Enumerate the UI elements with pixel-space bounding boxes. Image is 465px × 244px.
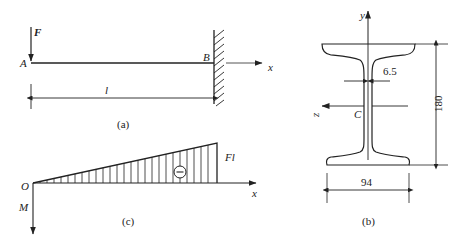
x-axis-label: x (267, 61, 273, 73)
length-label: l (105, 84, 108, 96)
negative-sign-icon (174, 166, 186, 178)
max-moment-label: Fl (224, 151, 235, 163)
moment-axis-label: M (18, 201, 29, 213)
figure-a-cantilever: F A B x l (a) (19, 26, 273, 131)
centroid-label: C (354, 108, 362, 120)
point-a-label: A (19, 57, 27, 69)
origin-label: O (21, 180, 29, 192)
moment-curve (33, 143, 217, 183)
i-beam-section (322, 44, 415, 165)
beam-diagram-canvas: F A B x l (a) (0, 0, 465, 244)
moment-x-axis-label: x (251, 187, 257, 199)
height-label: 180 (432, 95, 444, 112)
flange-width-label: 94 (361, 176, 373, 188)
point-b-label: B (203, 51, 210, 63)
figure-b-cross-section: y 180 6.5 z C 94 (b) (309, 9, 448, 228)
y-axis-label: y (359, 9, 365, 21)
figure-b-caption: (b) (362, 215, 375, 228)
figure-c-moment-diagram: x O M Fl (c) (18, 143, 257, 234)
z-axis-label: z (309, 112, 321, 118)
figure-c-caption: (c) (122, 215, 135, 228)
figure-a-caption: (a) (117, 118, 130, 131)
fixed-support-icon (214, 30, 224, 106)
web-thickness-label: 6.5 (383, 65, 397, 77)
force-label: F (33, 26, 42, 38)
